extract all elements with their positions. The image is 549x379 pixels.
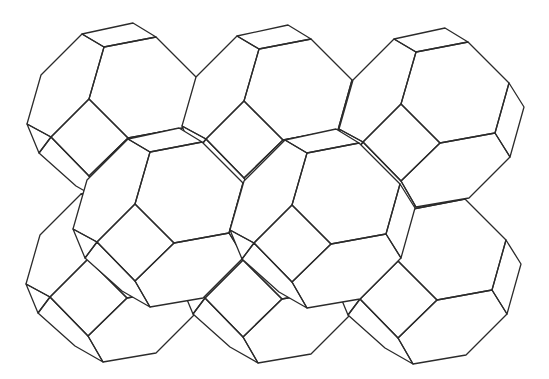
polyhedra-layer	[26, 23, 524, 364]
truncated-octahedra-packing-diagram	[0, 0, 549, 379]
